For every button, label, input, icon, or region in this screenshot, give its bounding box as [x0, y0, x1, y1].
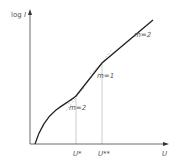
u-double-star-label: U**: [98, 150, 111, 158]
y-axis-label: log I: [11, 11, 26, 19]
slope-label-upper: m=2: [134, 31, 152, 39]
log-current-voltage-diagram: log I m=2 m=1 m=2 U* U** U: [0, 0, 178, 160]
u-star-label: U*: [73, 150, 82, 158]
y-axis-arrow-icon: [28, 9, 32, 15]
x-axis-arrow-icon: [163, 142, 169, 146]
slope-label-lower: m=2: [69, 104, 87, 112]
x-axis-label: U: [162, 150, 167, 158]
slope-label-middle: m=1: [97, 72, 114, 80]
